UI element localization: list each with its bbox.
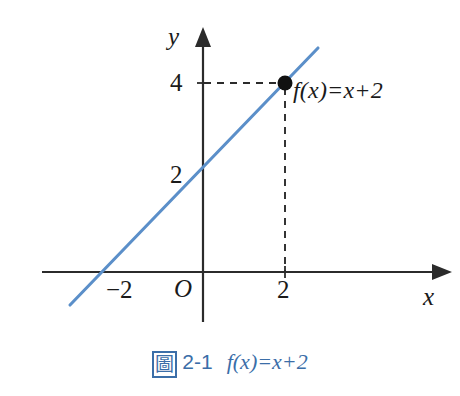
coordinate-plot: [0, 0, 460, 396]
function-equation-label: f(x)=x+2: [293, 78, 383, 102]
x-axis-label: x: [423, 284, 434, 309]
y-axis-label: y: [168, 24, 179, 49]
y-axis-arrowhead: [195, 27, 211, 47]
figure-container: y x 4 2 −2 2 O f(x)=x+2 圖2-1f(x)=x+2: [0, 0, 460, 396]
y-tick-label-4: 4: [170, 70, 183, 95]
origin-label: O: [174, 276, 192, 301]
x-tick-label-2: 2: [277, 277, 290, 302]
figure-icon: 圖: [152, 351, 177, 378]
x-tick-label-neg2: −2: [106, 277, 133, 302]
figure-number: 2-1: [182, 350, 212, 373]
y-tick-label-2: 2: [170, 162, 183, 187]
x-axis-arrowhead: [432, 264, 452, 280]
figure-caption: 圖2-1f(x)=x+2: [0, 349, 460, 378]
caption-formula: f(x)=x+2: [227, 349, 308, 374]
point-marker-2-4: [278, 76, 293, 91]
